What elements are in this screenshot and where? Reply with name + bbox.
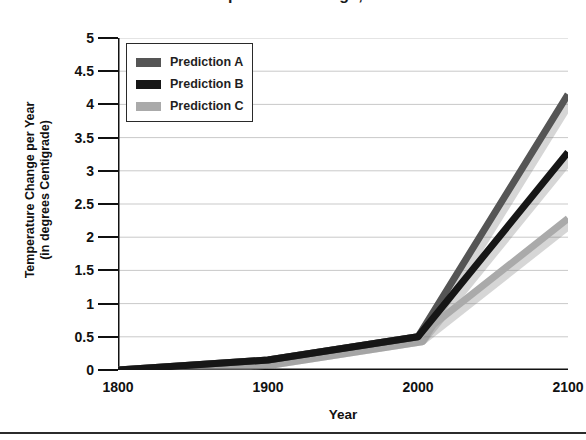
y-axis-tick-label: 0 <box>54 363 94 377</box>
y-axis-tick-mark <box>98 70 118 72</box>
legend-label-prediction-b: Prediction B <box>170 77 244 91</box>
series-line[interactable] <box>118 152 568 370</box>
y-axis-tick-label: 2 <box>54 230 94 244</box>
y-axis-title-line-1: Temperature Change per Year <box>23 30 38 350</box>
legend-swatch-prediction-c <box>136 102 161 111</box>
x-axis-tick-label: 1900 <box>228 379 308 395</box>
y-axis-tick-mark <box>98 170 118 172</box>
x-axis-tick-label: 2000 <box>378 379 458 395</box>
series-shadow <box>122 156 568 370</box>
temperature-change-line-chart: Global Temperature Change, 1800-2100 Tem… <box>0 0 586 440</box>
footer-divider <box>0 432 586 434</box>
legend-label-prediction-a: Prediction A <box>170 55 243 69</box>
y-axis-tick-mark <box>98 203 118 205</box>
y-axis-tick-mark <box>98 269 118 271</box>
y-axis-tick-mark <box>98 37 118 39</box>
y-axis-tick-label: 3.5 <box>54 131 94 145</box>
legend-label-prediction-c: Prediction C <box>170 99 244 113</box>
y-axis-tick-mark-group <box>98 0 120 440</box>
y-axis-tick-label: 5 <box>54 31 94 45</box>
legend-swatch-prediction-a <box>136 58 161 67</box>
y-axis-tick-label: 2.5 <box>54 197 94 211</box>
y-axis-tick-label: 1.5 <box>54 263 94 277</box>
y-axis-tick-mark <box>98 336 118 338</box>
y-axis-tick-mark <box>98 236 118 238</box>
y-axis-tick-label: 4 <box>54 97 94 111</box>
legend-item-prediction-c[interactable]: Prediction C <box>127 95 252 117</box>
y-axis-tick-mark <box>98 369 118 371</box>
x-axis-title: Year <box>118 407 568 422</box>
y-axis-tick-label: 1 <box>54 297 94 311</box>
x-axis-tick-label: 2100 <box>528 379 586 395</box>
y-axis-tick-mark <box>98 103 118 105</box>
legend-item-prediction-a[interactable]: Prediction A <box>127 51 252 73</box>
y-axis-tick-label: 0.5 <box>54 330 94 344</box>
y-axis-tick-label: 4.5 <box>54 64 94 78</box>
y-axis-tick-label: 3 <box>54 164 94 178</box>
legend-item-prediction-b[interactable]: Prediction B <box>127 73 252 95</box>
series-line-group <box>118 94 568 370</box>
legend-swatch-prediction-b <box>136 80 161 89</box>
chart-legend: Prediction A Prediction B Prediction C <box>126 43 253 122</box>
y-axis-tick-mark <box>98 303 118 305</box>
y-axis-tick-mark <box>98 137 118 139</box>
y-axis-tick-label-group: 54.543.532.521.510.50 <box>48 0 94 440</box>
x-axis-tick-label-group: 1800190020002100 <box>0 379 586 401</box>
x-axis-tick-label: 1800 <box>78 379 158 395</box>
